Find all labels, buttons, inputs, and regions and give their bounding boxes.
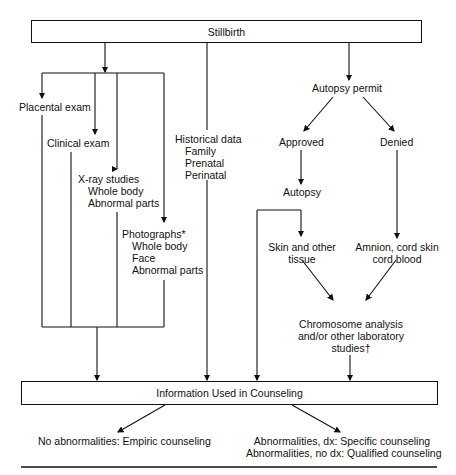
outcome-no-abnormalities: No abnormalities: Empiric counseling bbox=[38, 435, 211, 447]
information-counseling-box: Information Used in Counseling bbox=[21, 381, 438, 405]
xray-item: Abnormal parts bbox=[78, 197, 159, 209]
xray-title: X-ray studies bbox=[78, 173, 159, 185]
historical-data-block: Historical data Family Prenatal Perinata… bbox=[175, 133, 242, 181]
photographs-item: Abnormal parts bbox=[122, 264, 203, 276]
chromosome-block: Chromosome analysis and/or other laborat… bbox=[295, 318, 407, 354]
photographs-block: Photographs* Whole body Face Abnormal pa… bbox=[122, 228, 203, 276]
clinical-exam-label: Clinical exam bbox=[47, 137, 109, 149]
chromosome-line: studies† bbox=[295, 342, 407, 354]
outcome-qualified: Abnormalities, no dx: Qualified counseli… bbox=[246, 447, 438, 459]
information-counseling-label: Information Used in Counseling bbox=[156, 387, 303, 399]
denied-label: Denied bbox=[380, 136, 413, 148]
placental-exam-label: Placental exam bbox=[19, 101, 91, 113]
approved-label: Approved bbox=[279, 136, 324, 148]
chromosome-line: Chromosome analysis bbox=[295, 318, 407, 330]
photographs-title: Photographs* bbox=[122, 228, 203, 240]
stillbirth-box: Stillbirth bbox=[31, 20, 422, 43]
photographs-item: Face bbox=[122, 252, 203, 264]
xray-item: Whole body bbox=[78, 185, 159, 197]
amnion-line: cord blood bbox=[352, 253, 442, 265]
photographs-item: Whole body bbox=[122, 240, 203, 252]
historical-title: Historical data bbox=[175, 133, 242, 145]
amnion-line: Amnion, cord skin bbox=[352, 241, 442, 253]
historical-item: Prenatal bbox=[175, 157, 242, 169]
historical-item: Family bbox=[175, 145, 242, 157]
outcome-abnormalities-block: Abnormalities, dx: Specific counseling A… bbox=[246, 435, 438, 459]
chromosome-line: and/or other laboratory bbox=[295, 330, 407, 342]
stillbirth-label: Stillbirth bbox=[208, 26, 245, 38]
xray-studies-block: X-ray studies Whole body Abnormal parts bbox=[78, 173, 159, 209]
outcome-specific: Abnormalities, dx: Specific counseling bbox=[246, 435, 438, 447]
skin-line: tissue bbox=[264, 253, 340, 265]
skin-line: Skin and other bbox=[264, 241, 340, 253]
autopsy-label: Autopsy bbox=[283, 186, 321, 198]
skin-tissue-block: Skin and other tissue bbox=[264, 241, 340, 265]
historical-item: Perinatal bbox=[175, 169, 242, 181]
autopsy-permit-label: Autopsy permit bbox=[312, 82, 382, 94]
amnion-block: Amnion, cord skin cord blood bbox=[352, 241, 442, 265]
